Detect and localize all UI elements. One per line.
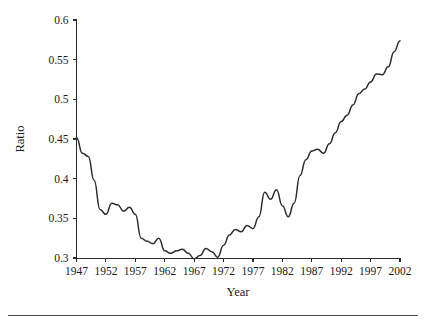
x-axis-title: Year (226, 285, 250, 299)
ratio-series-line (77, 41, 401, 259)
chart-figure: 0.30.350.40.450.50.550.6 Ratio 194719521… (0, 0, 426, 321)
x-tick-label: 1982 (271, 265, 294, 277)
y-tick-labels: 0.30.350.40.450.50.550.6 (48, 14, 68, 264)
x-tick-label: 1992 (330, 265, 353, 277)
x-tick-label: 2002 (389, 265, 412, 277)
y-tick-label: 0.35 (48, 212, 68, 224)
x-tick-label: 1972 (212, 265, 235, 277)
x-tick-label: 1947 (65, 265, 88, 277)
x-tick-label: 1962 (153, 265, 176, 277)
x-tick-label: 1957 (124, 265, 147, 277)
x-tick-labels: 1947195219571962196719721977198219871992… (65, 265, 412, 277)
x-axis-group: 1947195219571962196719721977198219871992… (65, 258, 412, 299)
y-axis-group: 0.30.350.40.450.50.550.6 Ratio (13, 14, 77, 264)
y-tick-label: 0.6 (54, 14, 69, 26)
x-tick-label: 1987 (300, 265, 323, 277)
y-tick-label: 0.5 (54, 93, 69, 105)
y-tick-marks (73, 20, 77, 258)
x-tick-label: 1977 (241, 265, 264, 277)
y-axis-title: Ratio (13, 125, 27, 152)
y-tick-label: 0.45 (48, 133, 68, 145)
y-tick-label: 0.55 (48, 54, 68, 66)
x-tick-label: 1952 (94, 265, 117, 277)
x-tick-label: 1967 (183, 265, 206, 277)
ratio-line-chart: 0.30.350.40.450.50.550.6 Ratio 194719521… (0, 0, 426, 321)
x-tick-label: 1997 (359, 265, 382, 277)
y-tick-label: 0.4 (54, 173, 69, 185)
y-tick-label: 0.3 (54, 252, 69, 264)
